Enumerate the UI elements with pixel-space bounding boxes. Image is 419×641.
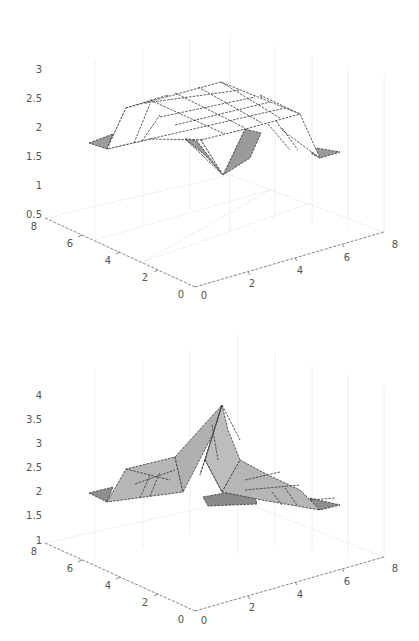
y-tick-label: 2 xyxy=(142,273,148,283)
x-tick-label: 4 xyxy=(297,266,303,276)
y-tick-label: 6 xyxy=(67,564,73,574)
z-tick-label: 1 xyxy=(36,536,42,546)
x-tick-label: 0 xyxy=(201,616,207,626)
z-tick-label: 1.5 xyxy=(26,511,42,521)
x-tick-label: 8 xyxy=(392,240,398,250)
y-tick-label: 0 xyxy=(178,290,184,300)
z-tick-label: 2.5 xyxy=(26,94,42,104)
z-tick-label: 4 xyxy=(36,391,42,401)
y-tick-label: 4 xyxy=(105,256,111,266)
x-tick-label: 4 xyxy=(297,590,303,600)
z-tick-label: 2 xyxy=(36,487,42,497)
plot-canvas-bottom xyxy=(0,320,419,641)
z-tick-label: 3.5 xyxy=(26,415,42,425)
x-tick-label: 6 xyxy=(344,577,350,587)
z-tick-label: 2.5 xyxy=(26,463,42,473)
y-tick-label: 2 xyxy=(142,598,148,608)
z-tick-label: 3 xyxy=(36,65,42,75)
surface-plot-top: 3 2.5 2 1.5 1 0.5 8 6 4 2 0 0 2 4 6 8 xyxy=(0,0,419,320)
surface-top xyxy=(89,82,340,175)
surface-bottom xyxy=(89,405,340,510)
y-tick-label: 0 xyxy=(178,615,184,625)
z-tick-label: 0.5 xyxy=(26,210,42,220)
y-tick-label: 4 xyxy=(105,581,111,591)
plot-canvas-top xyxy=(0,0,419,320)
z-tick-label: 1.5 xyxy=(26,152,42,162)
x-tick-label: 8 xyxy=(392,564,398,574)
z-tick-label: 3 xyxy=(36,439,42,449)
y-tick-label: 8 xyxy=(31,222,37,232)
y-tick-label: 8 xyxy=(31,547,37,557)
x-tick-label: 2 xyxy=(249,603,255,613)
floor-axes xyxy=(45,543,384,611)
y-tick-label: 6 xyxy=(67,239,73,249)
z-tick-label: 1 xyxy=(36,181,42,191)
floor-axes xyxy=(45,218,384,287)
z-tick-label: 2 xyxy=(36,123,42,133)
x-tick-label: 2 xyxy=(249,279,255,289)
surface-plot-bottom: 4 3.5 3 2.5 2 1.5 1 8 6 4 2 0 0 2 4 6 8 xyxy=(0,320,419,641)
x-tick-label: 0 xyxy=(201,291,207,301)
x-tick-label: 6 xyxy=(344,253,350,263)
